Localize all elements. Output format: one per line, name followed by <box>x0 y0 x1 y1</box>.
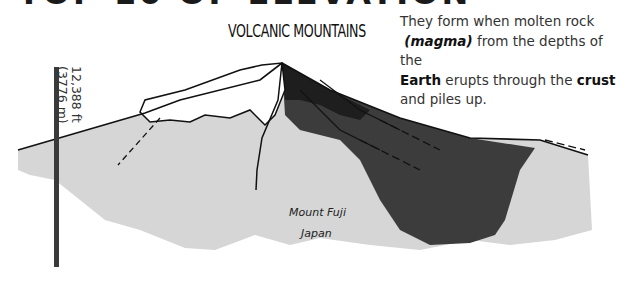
height-label: 12,388 ft (3776 m) <box>55 66 83 124</box>
height-feet: 12,388 ft <box>69 66 83 124</box>
mountain-name: Mount Fuji <box>289 206 346 219</box>
height-meters: (3776 m) <box>55 66 69 124</box>
mountain-country: Japan <box>301 227 332 240</box>
mount-fuji-illustration <box>0 0 629 285</box>
